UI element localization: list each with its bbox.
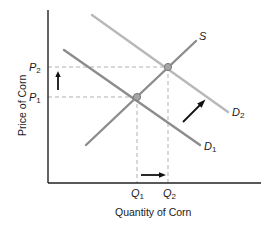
price-increase-arrow <box>55 71 60 90</box>
demand-shift-arrow <box>183 100 206 123</box>
price-label-p1: P1 <box>29 92 41 105</box>
equilibrium-point-2 <box>164 63 171 70</box>
supply-curve-label-main: S <box>199 30 206 42</box>
quantity-label-q1-sub: 1 <box>140 192 144 201</box>
demand-curve-d1 <box>64 50 200 145</box>
y-axis-title: Price of Corn <box>16 75 28 136</box>
quantity-label-q2-sub: 2 <box>172 192 176 201</box>
equilibrium-point-1 <box>133 93 140 100</box>
quantity-label-q1-main: Q <box>131 187 140 199</box>
demand-d2-label-main: D <box>232 106 240 118</box>
quantity-label-q2: Q2 <box>163 188 176 201</box>
quantity-increase-arrow <box>141 172 166 177</box>
price-label-p2-sub: 2 <box>36 66 40 75</box>
price-label-p2: P2 <box>29 62 41 75</box>
demand-d1-label: D1 <box>204 141 216 154</box>
demand-d2-label: D2 <box>232 107 244 120</box>
quantity-label-q1: Q1 <box>131 188 144 201</box>
price-label-p1-sub: 1 <box>36 96 40 105</box>
demand-d1-label-main: D <box>204 140 212 152</box>
arrow-right-icon <box>159 172 166 177</box>
supply-curve-label: S <box>199 31 206 42</box>
quantity-label-q2-main: Q <box>163 187 172 199</box>
demand-d2-label-sub: 2 <box>240 111 244 120</box>
arrow-up-icon <box>55 71 60 77</box>
x-axis-title: Quantity of Corn <box>115 206 191 218</box>
axes <box>48 10 261 183</box>
demand-d1-label-sub: 1 <box>212 145 216 154</box>
